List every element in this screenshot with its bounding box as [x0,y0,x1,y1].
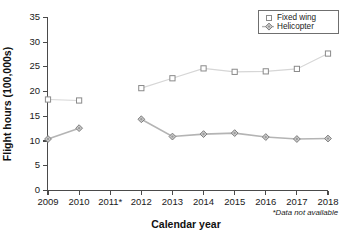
footnote-annotation: *Data not available [273,208,339,217]
fixed-wing-data-point [294,66,299,71]
helicopter-data-point-core [234,132,236,134]
fixed-wing-data-point [77,98,82,103]
x-tick-label: 2009 [37,196,58,207]
fixed-wing-line-seg-a [48,100,79,101]
y-tick-label: 20 [29,85,40,96]
helicopter-data-point-core [47,138,49,140]
y-tick-label: 30 [29,36,40,47]
x-tick-label: 2015 [224,196,245,207]
x-tick-label: 2012 [131,196,152,207]
y-tick-label: 0 [35,184,40,195]
x-tick-label: 2017 [286,196,307,207]
fixed-wing-data-point [325,51,330,56]
helicopter-data-point-core [171,135,173,137]
chart-canvas: Flight hours (100,000s) 35 30 25 20 15 1… [0,0,343,238]
chart-legend: Fixed wing Helicopter [259,11,339,34]
y-axis-title: Flight hours (100,000s) [1,47,13,161]
fixed-wing-data-point [263,69,268,74]
y-axis-ticks: 35 30 25 20 15 10 5 0 [29,11,47,195]
legend-open-square-icon [267,16,272,21]
fixed-wing-markers [45,51,330,103]
helicopter-line-seg-a [48,128,79,139]
x-axis-title: Calendar year [151,218,220,230]
series-helicopter [45,116,332,143]
y-tick-label: 15 [29,110,40,121]
helicopter-data-point-core [296,138,298,140]
helicopter-data-point-core [327,137,329,139]
x-tick-label: 2010 [69,196,90,207]
y-tick-label: 5 [35,159,40,170]
x-tick-label: 2014 [193,196,214,207]
x-tick-label: 2011* [98,196,122,207]
legend-item-label-fixed-wing: Fixed wing [277,13,317,22]
x-axis-ticks: 2009 2010 2011* 2012 2013 2014 2015 2016… [37,191,338,208]
fixed-wing-data-point [170,76,175,81]
y-tick-label: 10 [29,135,40,146]
y-tick-label: 35 [29,11,40,22]
fixed-wing-data-point [139,86,144,91]
x-tick-label: 2016 [255,196,276,207]
legend-item-label-helicopter: Helicopter [277,22,314,31]
series-fixed-wing [45,51,330,103]
helicopter-data-point-core [202,133,204,135]
helicopter-data-point-core [78,127,80,129]
x-tick-label: 2013 [162,196,183,207]
fixed-wing-data-point [201,66,206,71]
helicopter-data-point-core [140,118,142,120]
fixed-wing-data-point [45,97,50,102]
legend-diamond-core-icon [268,26,270,28]
helicopter-data-point-core [265,136,267,138]
x-tick-label: 2018 [317,196,338,207]
fixed-wing-data-point [232,69,237,74]
flight-hours-line-chart: Flight hours (100,000s) 35 30 25 20 15 1… [0,0,343,238]
y-tick-label: 25 [29,60,40,71]
